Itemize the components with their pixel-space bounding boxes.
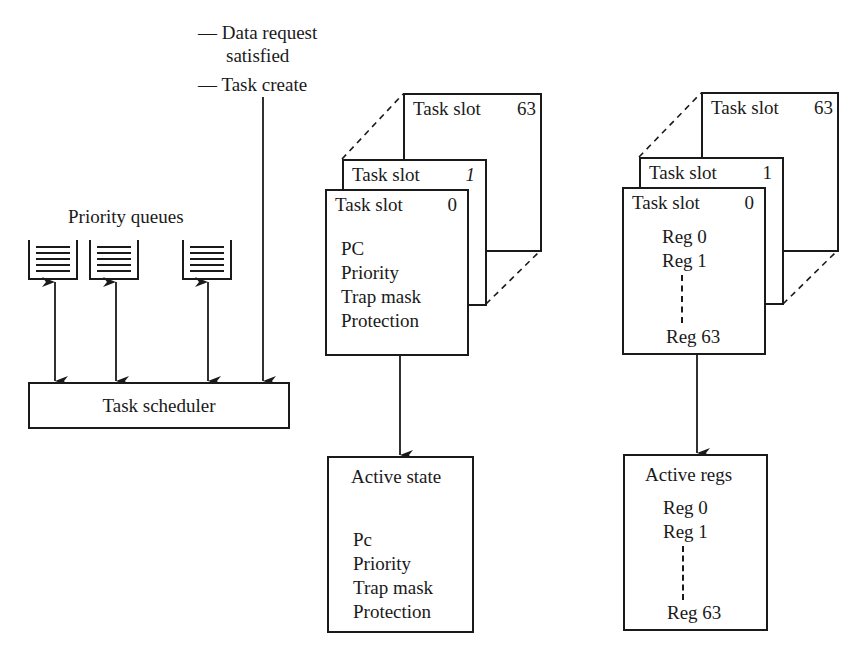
event-task-create-label: — Task create (198, 74, 307, 96)
active-state-box: Active state Pc Priority Trap mask Prote… (327, 456, 474, 633)
reg-1: Reg 1 (662, 249, 707, 273)
slot-title: Task slot (649, 162, 717, 184)
event-data-request-label: — Data request (198, 22, 317, 44)
reg-ellipsis (682, 546, 684, 600)
slot-number: 0 (448, 194, 458, 216)
active-regs-list: Reg 0 Reg 1 (663, 496, 708, 544)
field-pc: Pc (353, 528, 433, 552)
active-state-title: Active state (351, 466, 441, 488)
reg-last: Reg 63 (667, 601, 721, 625)
slot-number: 1 (466, 164, 476, 186)
state-slot-0: Task slot 0 PC Priority Trap mask Protec… (325, 189, 469, 356)
field-protection: Protection (341, 309, 421, 333)
reg-ellipsis (681, 275, 683, 323)
slot-number: 63 (814, 97, 833, 119)
slot-title: Task slot (711, 97, 779, 119)
reg-0: Reg 0 (663, 496, 708, 520)
field-protection: Protection (353, 600, 433, 624)
slot-regs: Reg 0 Reg 1 (662, 225, 707, 273)
reg-1: Reg 1 (663, 520, 708, 544)
priority-queue-2 (89, 240, 139, 280)
field-trap-mask: Trap mask (341, 285, 421, 309)
slot-title: Task slot (413, 98, 481, 120)
slot-title: Task slot (335, 194, 403, 216)
slot-title: Task slot (632, 192, 700, 214)
active-regs-box: Active regs Reg 0 Reg 1 Reg 63 (623, 454, 768, 631)
reg-last: Reg 63 (666, 325, 720, 349)
slot-title: Task slot (352, 164, 420, 186)
field-pc: PC (341, 237, 421, 261)
active-state-fields: Pc Priority Trap mask Protection (353, 528, 433, 624)
reg-0: Reg 0 (662, 225, 707, 249)
priority-queue-1 (28, 240, 78, 280)
slot-fields: PC Priority Trap mask Protection (341, 237, 421, 333)
task-scheduler-box: Task scheduler (28, 382, 290, 429)
active-regs-title: Active regs (645, 464, 732, 486)
field-priority: Priority (353, 552, 433, 576)
priority-queue-3 (182, 240, 232, 280)
slot-number: 1 (763, 162, 773, 184)
field-priority: Priority (341, 261, 421, 285)
slot-number: 0 (745, 192, 755, 214)
slot-number: 63 (517, 98, 536, 120)
priority-queues-label: Priority queues (68, 206, 184, 228)
event-data-request-label-cont: satisfied (226, 45, 289, 67)
register-slot-0: Task slot 0 Reg 0 Reg 1 Reg 63 (622, 187, 766, 355)
field-trap-mask: Trap mask (353, 576, 433, 600)
task-scheduler-label: Task scheduler (30, 395, 288, 417)
